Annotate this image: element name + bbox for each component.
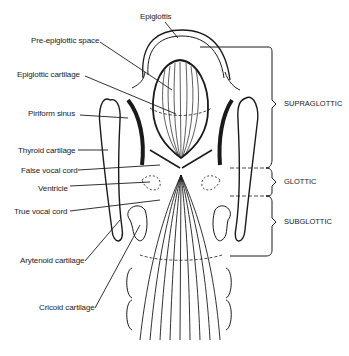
label-piriform-sinus: Piriform sinus [28,109,75,118]
label-ventricle: Ventricle [38,184,68,193]
larynx-diagram: Epiglottis Pre-epiglottic space Epiglott… [0,0,349,356]
label-thyroid-cartilage: Thyroid cartilage [18,146,75,155]
label-pre-epiglottic-space: Pre-epiglottic space [31,36,99,45]
label-epiglottis: Epiglottis [140,12,171,21]
region-supraglottic: SUPRAGLOTTIC [284,99,342,108]
region-glottic: GLOTTIC [284,177,317,186]
label-arytenoid-cartilage: Arytenoid cartilage [20,256,84,265]
label-cricoid-cartilage: Cricoid cartilage [39,303,95,312]
label-epiglottic-cartilage: Epiglottic cartilage [17,70,80,79]
label-false-vocal-cord: False vocal cord [21,166,78,175]
label-true-vocal-cord: True vocal cord [14,207,67,216]
region-subglottic: SUBGLOTTIC [284,217,332,226]
